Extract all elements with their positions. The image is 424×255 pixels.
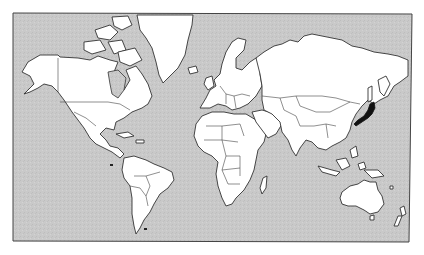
region-iceland	[188, 66, 198, 74]
region-sakhalin	[368, 86, 372, 102]
world-map	[0, 0, 424, 255]
region-tasmania	[370, 215, 374, 220]
